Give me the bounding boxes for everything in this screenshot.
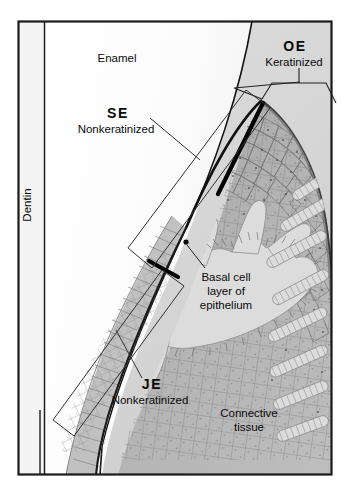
label-se-abbr: SE (107, 105, 129, 121)
label-basal-line2: layer of (207, 285, 246, 297)
label-basal-line1: Basal cell (201, 271, 250, 283)
label-connective-line2: tissue (234, 421, 264, 433)
label-enamel: Enamel (98, 52, 137, 64)
basal-cell-marker-dot (183, 239, 188, 244)
figure-body (18, 21, 350, 493)
label-oe-abbr: OE (283, 38, 306, 54)
label-se-sub: Nonkeratinized (78, 123, 155, 135)
label-dentin: Dentin (21, 188, 33, 221)
label-connective-line1: Connective (220, 407, 278, 419)
gingival-epithelium-diagram: Dentin Enamel OE Keratinized SE Nonkerat… (0, 0, 350, 493)
label-je-abbr: JE (142, 376, 162, 392)
label-basal-line3: epithelium (200, 299, 252, 311)
label-je-sub: Nonkeratinized (112, 394, 189, 406)
label-oe-sub: Keratinized (265, 56, 323, 68)
diagram-canvas: Dentin Enamel OE Keratinized SE Nonkerat… (0, 0, 350, 493)
dentin-region (18, 21, 44, 475)
